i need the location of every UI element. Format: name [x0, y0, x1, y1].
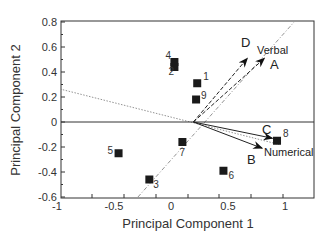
point-label-8: 8 [283, 128, 289, 139]
data-point-6 [219, 167, 227, 175]
point-label-5: 5 [108, 145, 114, 156]
point-label-1: 1 [203, 71, 209, 82]
pca-biplot: ABCDVerbalNumerical 123456789 -1-0.500.5… [0, 0, 336, 246]
annotation-c: C [262, 122, 271, 137]
data-point-8 [273, 137, 281, 145]
x-axis-title: Principal Component 1 [122, 216, 254, 231]
x-tick-label: 1 [282, 200, 288, 212]
axis-ticks: -1-0.500.51-0.6-0.4-0.200.20.40.60.8 [38, 16, 288, 212]
y-axis-title: Principal Component 2 [8, 44, 23, 176]
point-label-7: 7 [179, 147, 185, 158]
annotation-numerical: Numerical [264, 146, 314, 158]
data-point-7 [178, 138, 186, 146]
loading-arrow-b [193, 122, 262, 148]
data-point-1 [193, 79, 201, 87]
data-point-5 [115, 149, 123, 157]
data-point-3 [145, 176, 153, 184]
x-tick-label: 0 [168, 200, 174, 212]
score-points: 123456789 [108, 50, 289, 190]
y-tick-label: -0.2 [38, 141, 57, 153]
loading-arrows: ABCDVerbalNumerical [193, 35, 313, 167]
x-tick-label: -0.5 [105, 200, 124, 212]
annotation-verbal: Verbal [257, 44, 288, 56]
point-label-9: 9 [201, 90, 207, 101]
data-point-4 [170, 58, 178, 66]
y-tick-label: 0.8 [42, 16, 57, 28]
point-label-4: 4 [165, 50, 171, 61]
annotation-a: A [270, 57, 279, 72]
annotation-d: D [241, 35, 250, 50]
y-tick-label: 0.4 [42, 66, 57, 78]
annotation-b: B [247, 152, 256, 167]
point-label-2: 2 [168, 66, 174, 77]
loading-arrow-c [193, 122, 272, 138]
y-tick-label: -0.4 [38, 166, 57, 178]
y-tick-label: 0 [51, 116, 57, 128]
y-tick-label: 0.6 [42, 41, 57, 53]
data-point-9 [192, 96, 200, 104]
variable-axis-numerical [57, 88, 279, 144]
point-label-6: 6 [228, 170, 234, 181]
y-tick-label: 0.2 [42, 91, 57, 103]
y-tick-label: -0.6 [38, 191, 57, 203]
point-label-3: 3 [153, 179, 159, 190]
x-tick-label: 0.5 [220, 200, 235, 212]
